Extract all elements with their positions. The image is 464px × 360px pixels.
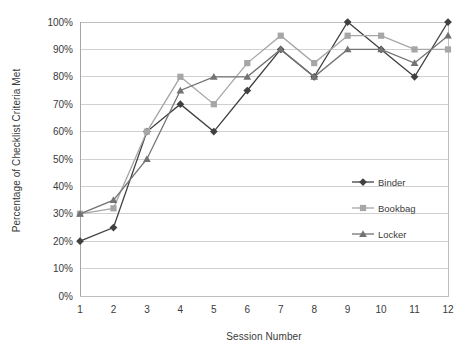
x-axis-title: Session Number: [226, 331, 301, 342]
y-tick-label: 50%: [53, 154, 73, 165]
y-tick-label: 20%: [53, 236, 73, 247]
data-point-marker: [445, 46, 451, 52]
y-tick-label: 10%: [53, 263, 73, 274]
series-locker: [76, 32, 452, 217]
x-tick-label: 10: [376, 304, 388, 315]
data-point-marker: [110, 224, 118, 232]
x-tick-label: 6: [244, 304, 250, 315]
y-axis-title-wrap: Percentage of Checklist Criteria Met: [6, 0, 28, 300]
y-tick-label: 60%: [53, 126, 73, 137]
y-tick-label: 90%: [53, 44, 73, 55]
legend-label: Binder: [378, 177, 405, 188]
y-tick-label: 0%: [59, 291, 74, 302]
x-tick-label: 8: [311, 304, 317, 315]
y-tick-label: 30%: [53, 208, 73, 219]
x-tick-label: 7: [278, 304, 284, 315]
y-tick-label: 70%: [53, 99, 73, 110]
data-point-marker: [411, 46, 417, 52]
line-chart-plot: 0%10%20%30%40%50%60%70%80%90%100% 123456…: [0, 0, 464, 330]
x-tick-label: 12: [442, 304, 454, 315]
legend-label: Bookbag: [378, 203, 416, 214]
y-axis-title: Percentage of Checklist Criteria Met: [12, 68, 23, 232]
data-point-marker: [444, 32, 452, 39]
legend-label: Locker: [378, 229, 407, 240]
y-tick-label: 80%: [53, 71, 73, 82]
x-tick-label: 9: [345, 304, 351, 315]
data-point-marker: [359, 178, 367, 186]
x-axis-title-wrap: Session Number: [80, 326, 448, 344]
x-tick-label: 3: [144, 304, 150, 315]
x-tick-label: 1: [77, 304, 83, 315]
y-axis-tick-labels: 0%10%20%30%40%50%60%70%80%90%100%: [47, 17, 73, 302]
x-axis-tick-labels: 123456789101112: [77, 304, 454, 315]
data-point-marker: [177, 74, 183, 80]
x-tick-label: 2: [111, 304, 117, 315]
data-point-marker: [444, 18, 452, 26]
data-point-marker: [311, 60, 317, 66]
data-point-marker: [278, 33, 284, 39]
data-point-marker: [110, 205, 116, 211]
legend-item-bookbag[interactable]: Bookbag: [352, 203, 416, 214]
data-point-marker: [378, 33, 384, 39]
x-tick-label: 5: [211, 304, 217, 315]
data-point-marker: [76, 237, 84, 245]
chart-container: Percentage of Checklist Criteria Met 0%1…: [0, 0, 464, 360]
data-point-marker: [211, 101, 217, 107]
x-tick-label: 11: [409, 304, 420, 315]
data-point-marker: [360, 205, 366, 211]
x-tick-label: 4: [178, 304, 184, 315]
data-point-marker: [345, 33, 351, 39]
legend-item-locker[interactable]: Locker: [352, 229, 407, 240]
y-tick-label: 40%: [53, 181, 73, 192]
y-tick-label: 100%: [47, 17, 73, 28]
data-point-marker: [144, 129, 150, 135]
legend-item-binder[interactable]: Binder: [352, 177, 405, 188]
data-point-marker: [244, 60, 250, 66]
